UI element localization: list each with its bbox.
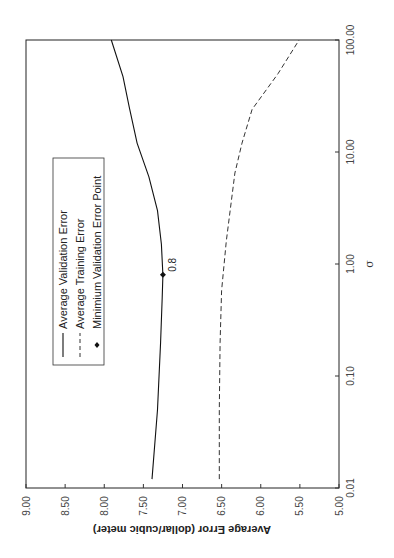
- y-tick-label: 7.00: [177, 496, 188, 516]
- x-axis-title: σ: [363, 260, 376, 268]
- x-tick-label: 100.00: [345, 24, 356, 55]
- series-average-validation-error: [111, 40, 163, 479]
- legend-label-training: Average Training Error: [74, 218, 86, 329]
- x-tick-label: 1.00: [345, 254, 356, 274]
- x-tick-label: 10.00: [345, 139, 356, 164]
- y-tick-label: 5.50: [294, 496, 305, 516]
- legend: Average Validation Error Average Trainin…: [53, 158, 104, 365]
- x-tick-label: 0.10: [345, 366, 356, 386]
- chart: 0.010.101.0010.00100.005.005.506.006.507…: [0, 0, 394, 558]
- y-tick-label: 8.50: [60, 496, 71, 516]
- legend-label-validation: Average Validation Error: [57, 210, 69, 329]
- marker-label: 0.8: [167, 258, 178, 272]
- y-tick-label: 6.50: [216, 496, 227, 516]
- y-tick-label: 6.00: [255, 496, 266, 516]
- series-average-training-error: [219, 40, 299, 479]
- x-tick-label: 0.01: [345, 478, 356, 498]
- y-tick-label: 7.50: [138, 496, 149, 516]
- y-tick-label: 9.00: [21, 496, 32, 516]
- min-validation-error-marker: [160, 272, 166, 278]
- legend-label-min-point: Minimium Validation Error Point: [91, 176, 103, 329]
- y-tick-label: 8.00: [99, 496, 110, 516]
- y-tick-label: 5.00: [334, 496, 345, 516]
- y-axis-title: Average Error (dollar/cubic meter): [93, 524, 271, 536]
